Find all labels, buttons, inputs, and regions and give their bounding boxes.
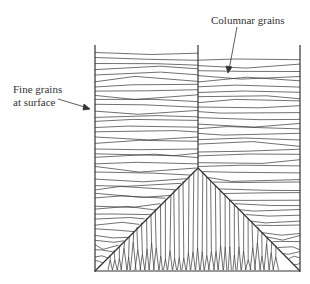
grain-boundary (198, 127, 227, 129)
grain-boundary (215, 186, 216, 251)
grain-boundary (95, 166, 139, 172)
grain-boundary (175, 258, 177, 270)
grain-boundary (260, 256, 262, 270)
grain-boundary (198, 96, 267, 97)
grain-boundary (95, 66, 160, 69)
grain-boundary (157, 116, 198, 117)
grain-boundary (253, 142, 301, 147)
grain-boundary (154, 99, 198, 101)
grain-boundary (193, 252, 195, 270)
grain-boundary (130, 218, 145, 219)
grain-boundary (218, 246, 221, 270)
grain-boundary (198, 118, 260, 120)
grain-boundary (102, 250, 113, 252)
grain-boundary (283, 236, 300, 241)
grain-boundary (129, 257, 131, 270)
grain-boundary (137, 162, 198, 164)
columnar-arrow (229, 27, 237, 70)
grain-boundary (211, 181, 212, 251)
grain-boundary (152, 173, 191, 175)
grain-boundary (168, 250, 170, 270)
grain-boundary (198, 138, 245, 140)
grain-boundary (236, 59, 300, 60)
grain-boundary (242, 165, 300, 166)
grain-boundary (95, 179, 143, 182)
grain-boundary (113, 237, 129, 238)
grain-boundary (236, 99, 300, 101)
grain-boundary (95, 235, 113, 238)
grain-boundary (95, 131, 175, 132)
grain-boundary (269, 253, 271, 271)
grain-boundary (236, 85, 300, 87)
grain-boundary (214, 251, 216, 270)
grain-boundary (135, 76, 198, 81)
grain-boundary (276, 257, 279, 270)
grain-boundary (95, 186, 120, 190)
grain-boundary (95, 137, 149, 140)
grain-boundary (240, 210, 253, 211)
grain-boundary (127, 257, 129, 270)
grain-boundary (241, 251, 243, 270)
grain-boundary (198, 99, 236, 102)
grain-boundary (216, 251, 218, 270)
grain-boundary (95, 119, 133, 121)
grain-boundary (198, 248, 200, 270)
grain-boundary (95, 72, 161, 75)
grain-boundary (239, 182, 300, 183)
grain-boundary (191, 252, 193, 270)
grain-boundary (154, 248, 157, 270)
grain-boundary (165, 259, 167, 270)
grain-boundary (198, 107, 259, 108)
grain-boundary (245, 138, 300, 140)
grain-boundary (225, 247, 227, 270)
grain-boundary (113, 214, 150, 215)
grain-boundary (281, 234, 300, 236)
grain-boundary (213, 182, 239, 183)
grain-boundary (228, 246, 230, 270)
grain-boundary (114, 241, 124, 243)
fine-grains-label-line2: at surface (13, 96, 55, 109)
grain-boundary (202, 172, 235, 173)
fine-grains-label-line1: Fine grains (13, 83, 62, 96)
grain-boundary (159, 256, 161, 270)
grain-boundary (95, 172, 152, 173)
grain-boundary (120, 186, 176, 189)
grain-boundary (95, 95, 135, 99)
grain-boundary (144, 105, 198, 108)
grain-boundary (95, 140, 140, 143)
grain-boundary (238, 209, 239, 247)
grain-boundary (204, 255, 206, 270)
grain-boundary (95, 149, 140, 150)
grain-boundary (95, 111, 138, 114)
grain-boundary (196, 248, 198, 270)
grain-boundary (224, 133, 300, 135)
grain-boundary (224, 193, 267, 194)
grain-boundary (103, 245, 119, 249)
grain-boundary (138, 110, 198, 114)
grain-boundary (198, 142, 253, 145)
grain-boundary (244, 251, 246, 270)
grain-boundary (132, 204, 160, 208)
grain-boundary (198, 85, 236, 87)
grain-boundary (220, 191, 221, 246)
grain-boundary (202, 172, 203, 251)
grain-boundary (265, 221, 300, 223)
grain-boundary (174, 190, 175, 258)
grain-boundary (200, 252, 202, 270)
grain-boundary (244, 91, 300, 92)
grain-boundary (267, 96, 300, 99)
grain-boundary (135, 250, 138, 270)
grain-boundary (143, 179, 186, 182)
grain-boundary (116, 230, 134, 232)
grain-boundary (151, 53, 198, 54)
grain-boundary (164, 259, 166, 270)
grain-boundary (198, 151, 246, 152)
grain-boundary (253, 210, 300, 212)
grain-boundary (239, 247, 241, 270)
grain-boundary (140, 149, 198, 150)
grain-boundary (183, 181, 184, 258)
grain-boundary (95, 245, 103, 250)
grain-boundary (227, 127, 300, 129)
grain-boundary (142, 223, 143, 255)
grain-boundary (145, 249, 147, 270)
